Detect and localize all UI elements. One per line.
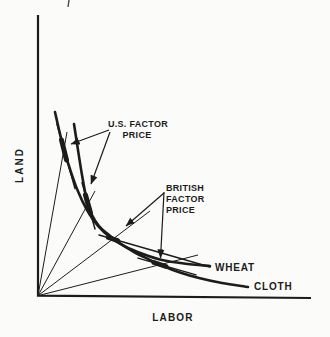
y-axis-label: LAND xyxy=(14,147,25,183)
british-factor-price-label-line1: BRITISH xyxy=(166,183,204,193)
british-arrow-to-cloth-tangency xyxy=(161,192,165,258)
us-factor-price-label-line2: PRICE xyxy=(122,130,151,140)
british-factor-price-label-line2: FACTOR xyxy=(166,194,205,204)
page-artifact-tick xyxy=(68,0,69,7)
british-factor-price-label-line3: PRICE xyxy=(166,205,195,215)
wheat-curve-label: WHEAT xyxy=(215,262,255,273)
us-factor-price-label-line1: U.S. FACTOR xyxy=(108,119,168,129)
ray-us-wheat xyxy=(38,132,67,296)
tangency-dots xyxy=(62,140,167,267)
factor-price-equalization-diagram: U.S. FACTORPRICEBRITISHFACTORPRICEWHEATC… xyxy=(0,0,330,337)
dot-british-wheat xyxy=(109,238,118,241)
us-arrow-to-cloth-tangency xyxy=(91,132,110,184)
diagram-page: U.S. FACTORPRICEBRITISHFACTORPRICEWHEATC… xyxy=(0,0,330,337)
labels: U.S. FACTORPRICEBRITISHFACTORPRICEWHEATC… xyxy=(14,119,292,323)
x-axis-label: LABOR xyxy=(152,312,194,323)
cloth-curve-label: CLOTH xyxy=(254,281,292,292)
british-arrow-to-wheat-tangency xyxy=(126,193,164,226)
